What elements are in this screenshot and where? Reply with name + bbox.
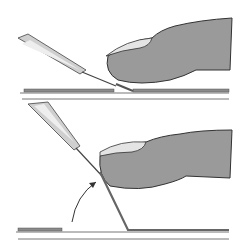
diagram-svg (0, 0, 246, 252)
tool-highlight (22, 40, 80, 70)
top-panel (18, 18, 232, 99)
strip-right (133, 89, 229, 92)
bottom-panel (16, 102, 232, 239)
tool-body (28, 102, 80, 150)
finger (100, 130, 232, 189)
strip-end (116, 84, 133, 91)
lift-arrow-icon (72, 182, 96, 222)
strip-left (18, 228, 62, 231)
illustration (0, 0, 246, 252)
tool-tip (76, 148, 102, 176)
strip-left (24, 89, 114, 92)
